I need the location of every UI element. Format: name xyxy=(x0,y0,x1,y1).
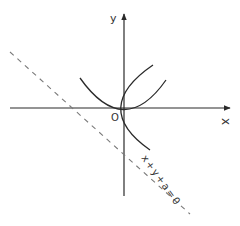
origin-label: O xyxy=(111,112,119,123)
x-axis-label: x xyxy=(219,118,233,125)
diagram: y O x x+y+a=0 xyxy=(0,0,240,226)
parabola-upward xyxy=(80,78,166,110)
y-axis-label: y xyxy=(110,12,117,25)
line-equation-label: x+y+a=0 xyxy=(139,153,183,208)
